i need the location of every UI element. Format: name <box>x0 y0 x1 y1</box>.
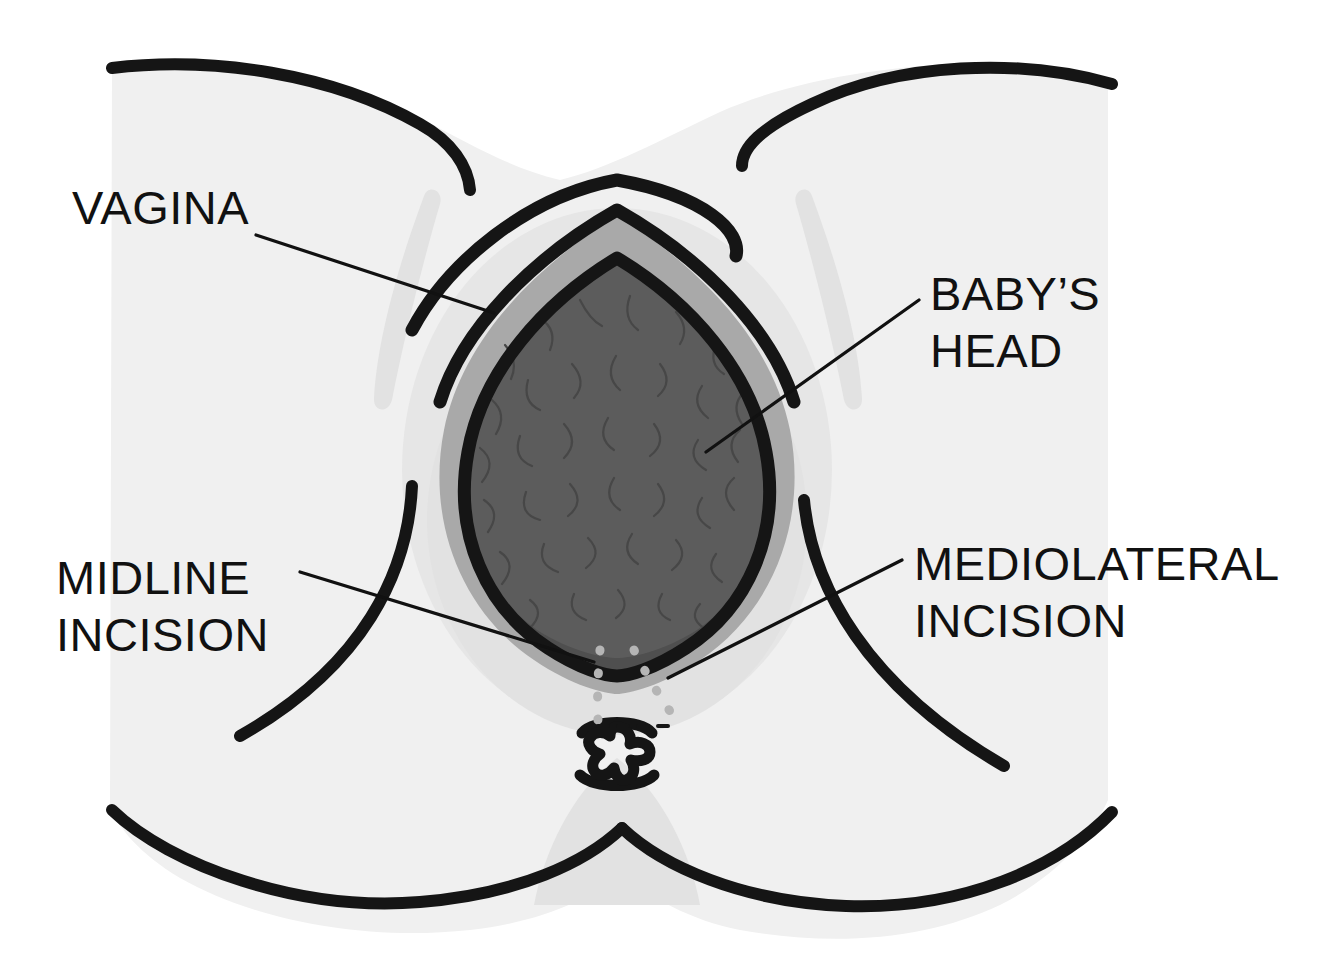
babys-head-label-line1: BABY’S <box>930 267 1100 320</box>
vagina-label-line1: VAGINA <box>72 181 249 234</box>
diagram-canvas: Episiotomy incision types during crownin… <box>0 0 1331 979</box>
midline-incision-label-line1: MIDLINE <box>56 551 250 604</box>
mediolateral-incision-label-line1: MEDIOLATERAL <box>914 537 1280 590</box>
midline-incision-label-line2: INCISION <box>56 608 269 661</box>
episiotomy-diagram: Episiotomy incision types during crownin… <box>0 0 1331 979</box>
babys-head-label-line2: HEAD <box>930 324 1063 377</box>
label-vagina: VAGINA <box>72 181 249 234</box>
mediolateral-incision-label-line2: INCISION <box>914 594 1127 647</box>
